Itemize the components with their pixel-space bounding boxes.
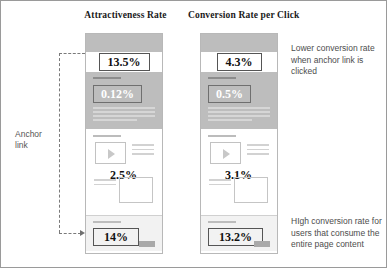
text-line — [132, 149, 154, 151]
media-section-heading-bar — [93, 135, 121, 137]
anchor-link-label: Anchor link — [15, 129, 59, 151]
mockup-media-section: 2.5% — [86, 129, 162, 215]
metric-hero-value: 13.5% — [99, 53, 150, 71]
footer-cta-button[interactable] — [139, 241, 155, 247]
anchor-bracket-top-line — [59, 53, 85, 54]
text-line — [132, 144, 154, 146]
media-side-text-lines — [247, 144, 269, 158]
text-line — [247, 153, 269, 155]
page-mockup-conversion: 4.3% 0.5% 3.1% — [200, 33, 278, 254]
video-placeholder — [95, 142, 126, 164]
gray-section-heading-bar — [93, 77, 121, 79]
play-icon — [223, 149, 230, 159]
anchor-bracket-vertical-line — [59, 53, 60, 233]
mockup-footer-section: 13.2% — [201, 215, 277, 251]
gray-text-line — [208, 119, 252, 121]
gray-text-line — [93, 111, 155, 113]
page-mockup-attractiveness: 13.5% 0.12% 2.5% — [85, 33, 163, 254]
footer-cta-button[interactable] — [254, 241, 270, 247]
mockup-hero-band: 13.5% — [86, 52, 162, 72]
media-left-text-lines — [209, 179, 231, 188]
media-side-text-lines — [132, 144, 154, 158]
play-icon — [108, 149, 115, 159]
footer-heading-bar — [93, 221, 121, 223]
footer-heading-bar — [208, 221, 236, 223]
text-line — [132, 153, 154, 155]
gray-text-line — [208, 115, 270, 117]
gray-text-line — [93, 115, 155, 117]
column-heading-attractiveness: Attractiveness Rate — [73, 10, 178, 20]
column-heading-conversion: Conversion Rate per Click — [188, 10, 293, 20]
gray-text-line — [93, 119, 137, 121]
media-section-heading-bar — [208, 135, 236, 137]
mockup-topbar — [201, 34, 277, 52]
text-line — [94, 179, 116, 181]
gray-text-line — [208, 111, 270, 113]
mockup-footer-section: 14% — [86, 215, 162, 251]
mockup-topbar — [86, 34, 162, 52]
gray-text-line — [208, 107, 270, 109]
mockup-gray-section: 0.5% — [201, 72, 277, 129]
mockup-gray-section: 0.12% — [86, 72, 162, 129]
gray-text-line — [93, 107, 155, 109]
anchor-bracket-bottom-line — [59, 233, 81, 234]
metric-gray-value: 0.12% — [93, 85, 142, 103]
text-line — [247, 144, 269, 146]
metric-footer-value: 14% — [93, 228, 139, 246]
anchor-bracket-arrowhead-icon — [80, 230, 85, 236]
annotation-lower-conversion: Lower conversion rate when anchor link i… — [291, 43, 383, 78]
text-line — [247, 149, 269, 151]
video-placeholder — [210, 142, 241, 164]
text-line — [94, 184, 116, 186]
text-line — [209, 179, 231, 181]
image-placeholder — [119, 177, 153, 203]
metric-gray-value: 0.5% — [208, 85, 251, 103]
image-placeholder — [234, 177, 268, 203]
media-left-text-lines — [94, 179, 116, 188]
annotation-high-conversion: HIgh conversion rate for users that cons… — [291, 216, 383, 251]
gray-section-heading-bar — [208, 77, 236, 79]
text-line — [209, 184, 231, 186]
mockup-media-section: 3.1% — [201, 129, 277, 215]
mockup-hero-band: 4.3% — [201, 52, 277, 72]
figure-container: Attractiveness Rate Conversion Rate per … — [0, 0, 387, 268]
metric-hero-value: 4.3% — [217, 53, 262, 71]
